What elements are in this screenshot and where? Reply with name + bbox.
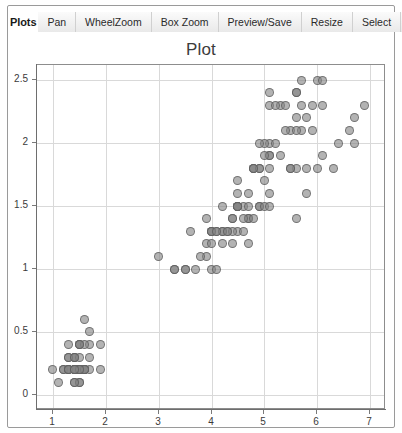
- scatter-point: [170, 265, 179, 274]
- scatter-point: [75, 340, 84, 349]
- x-axis-tick: [105, 410, 106, 414]
- scatter-point: [302, 113, 311, 122]
- scatter-point: [85, 353, 94, 362]
- scatter-point: [96, 365, 105, 374]
- scatter-point: [276, 151, 285, 160]
- y-axis-tick: [32, 394, 36, 395]
- scatter-point: [191, 265, 200, 274]
- scatter-point: [265, 164, 274, 173]
- scatter-point: [329, 164, 338, 173]
- plot-title: Plot: [0, 40, 402, 60]
- scatter-point: [70, 378, 79, 387]
- scatter-point: [181, 265, 190, 274]
- scatter-point: [334, 139, 343, 148]
- y-axis-tick: [32, 142, 36, 143]
- gridline-horizontal: [37, 395, 384, 396]
- scatter-point: [186, 227, 195, 236]
- scatter-point: [223, 227, 232, 236]
- scatter-point: [80, 315, 89, 324]
- x-axis-tick: [52, 410, 53, 414]
- scatter-point: [239, 227, 248, 236]
- scatter-point: [70, 365, 79, 374]
- gridline-vertical: [317, 65, 318, 408]
- scatter-point: [218, 202, 227, 211]
- scatter-point: [308, 126, 317, 135]
- scatter-point: [249, 164, 258, 173]
- scatter-point: [260, 176, 269, 185]
- gridline-horizontal: [37, 143, 384, 144]
- plot-window: Plots Pan WheelZoom Box Zoom Preview/Sav…: [0, 0, 402, 433]
- scatter-point: [281, 126, 290, 135]
- scatter-point: [271, 139, 280, 148]
- gridline-vertical: [159, 65, 160, 408]
- x-axis-tick-label: 6: [301, 416, 331, 427]
- scatter-point: [96, 340, 105, 349]
- y-axis-line: [36, 64, 37, 410]
- scatter-point: [249, 214, 258, 223]
- scatter-point: [350, 113, 359, 122]
- scatter-point: [54, 378, 63, 387]
- scatter-point: [233, 176, 242, 185]
- scatter-point: [308, 101, 317, 110]
- x-axis-tick-label: 4: [196, 416, 226, 427]
- plot-data-canvas[interactable]: [36, 64, 385, 409]
- gridline-vertical: [106, 65, 107, 408]
- scatter-point: [228, 239, 237, 248]
- scatter-point: [233, 202, 242, 211]
- scatter-point: [212, 265, 221, 274]
- y-axis-tick-label: 2.5: [0, 73, 28, 84]
- scatter-point: [318, 151, 327, 160]
- scatter-point: [212, 227, 221, 236]
- scatter-point: [85, 327, 94, 336]
- scatter-point: [244, 239, 253, 248]
- y-axis-tick-label: 2: [0, 136, 28, 147]
- x-axis-tick: [211, 410, 212, 414]
- scatter-point: [228, 214, 237, 223]
- gridline-horizontal: [37, 206, 384, 207]
- gridline-horizontal: [37, 80, 384, 81]
- scatter-plot[interactable]: Plot 1234567 00.511.522.5: [0, 0, 402, 433]
- y-axis-tick-label: 1.5: [0, 199, 28, 210]
- scatter-point: [265, 189, 274, 198]
- scatter-point: [318, 101, 327, 110]
- scatter-point: [360, 101, 369, 110]
- scatter-point: [218, 239, 227, 248]
- gridline-vertical: [264, 65, 265, 408]
- scatter-point: [244, 202, 253, 211]
- y-axis-tick: [32, 331, 36, 332]
- y-axis-tick-label: 0: [0, 388, 28, 399]
- y-axis-tick: [32, 79, 36, 80]
- gridline-vertical: [370, 65, 371, 408]
- scatter-point: [292, 126, 301, 135]
- scatter-point: [64, 340, 73, 349]
- scatter-point: [48, 365, 57, 374]
- gridline-vertical: [53, 65, 54, 408]
- scatter-point: [286, 164, 295, 173]
- y-axis-tick-label: 1: [0, 262, 28, 273]
- x-axis-tick-label: 3: [143, 416, 173, 427]
- scatter-point: [281, 101, 290, 110]
- scatter-point: [292, 113, 301, 122]
- y-axis-tick: [32, 205, 36, 206]
- scatter-point: [207, 239, 216, 248]
- scatter-point: [350, 139, 359, 148]
- scatter-point: [297, 76, 306, 85]
- scatter-point: [313, 164, 322, 173]
- x-axis-tick: [263, 410, 264, 414]
- scatter-point: [297, 101, 306, 110]
- y-axis-tick: [32, 268, 36, 269]
- x-axis-tick: [316, 410, 317, 414]
- x-axis-tick-label: 7: [354, 416, 384, 427]
- scatter-point: [292, 214, 301, 223]
- x-axis-tick: [158, 410, 159, 414]
- scatter-point: [255, 139, 264, 148]
- scatter-point: [202, 214, 211, 223]
- y-axis-tick-label: 0.5: [0, 325, 28, 336]
- scatter-point: [345, 126, 354, 135]
- scatter-point: [302, 164, 311, 173]
- scatter-point: [292, 88, 301, 97]
- scatter-point: [265, 88, 274, 97]
- gridline-vertical: [212, 65, 213, 408]
- x-axis-tick-label: 1: [37, 416, 67, 427]
- x-axis-tick-label: 5: [248, 416, 278, 427]
